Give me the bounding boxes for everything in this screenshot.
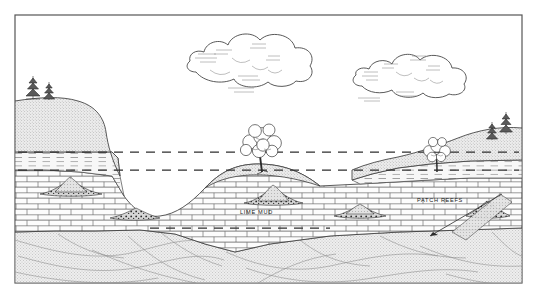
geologic-cross-section-figure xyxy=(0,0,539,300)
lime-mud-label: LIME MUD xyxy=(240,209,273,215)
patch-reefs-label: PATCH REEFS xyxy=(417,197,463,203)
diagram-stage: LIME MUD PATCH REEFS xyxy=(0,0,539,300)
